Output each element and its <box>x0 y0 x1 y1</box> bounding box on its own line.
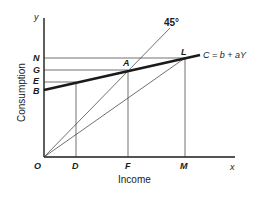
consumption-function-label: C = b + aY <box>203 50 247 60</box>
x-axis-end-label: x <box>229 162 235 172</box>
point-A: A <box>122 58 130 68</box>
ray-origin-to-L <box>44 58 185 157</box>
y-point-N: N <box>33 53 40 63</box>
x-point-F: F <box>125 161 131 171</box>
y-axis-end-label: y <box>33 12 39 22</box>
point-L: L <box>181 47 187 57</box>
y-point-B: B <box>33 86 40 96</box>
x-point-D: D <box>72 161 79 171</box>
origin-label: O <box>34 161 41 171</box>
x-point-M: M <box>180 161 188 171</box>
forty-five-degree-line <box>44 28 170 157</box>
y-axis-title: Consumption <box>16 63 27 122</box>
forty-five-degree-label: 45° <box>164 17 179 28</box>
consumption-function-line <box>44 55 200 90</box>
consumption-function-diagram: y x O N G E B D F M A L 45° C = b + aY I… <box>0 0 256 197</box>
x-axis-title: Income <box>118 174 151 185</box>
y-point-E: E <box>33 76 40 86</box>
y-point-G: G <box>33 65 40 75</box>
